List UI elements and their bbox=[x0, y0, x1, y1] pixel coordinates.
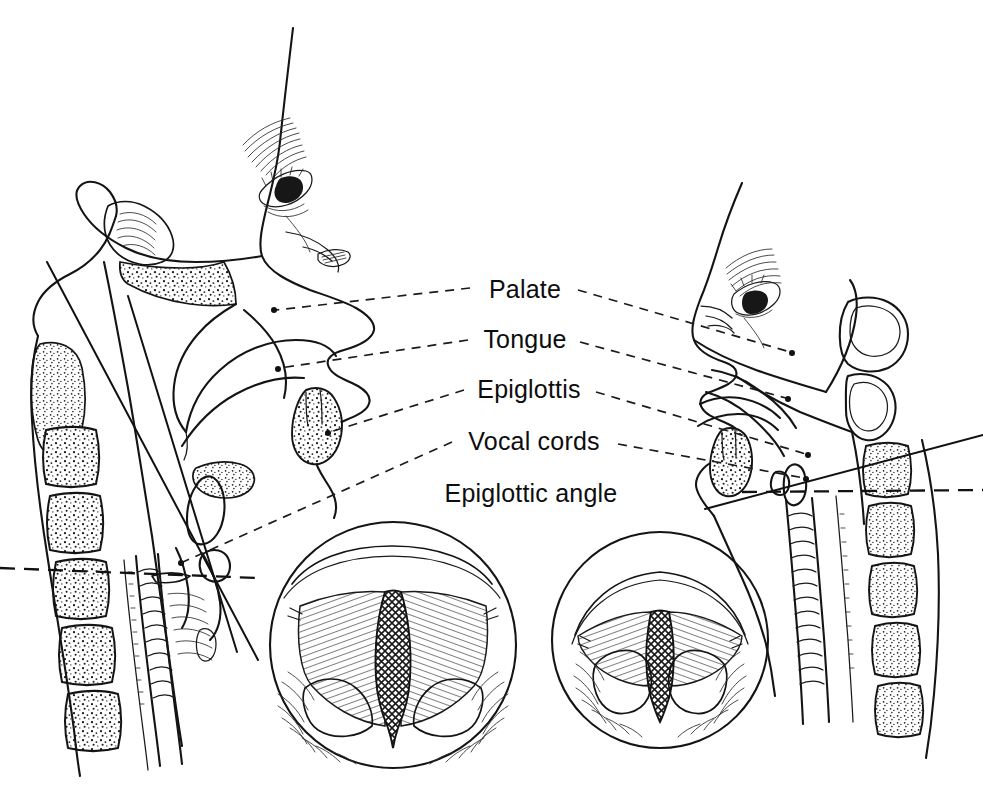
airway-anatomy-illustration: Palate Tongue Epiglottis Vocal cords Epi… bbox=[0, 0, 983, 793]
leader-dot-palate-right bbox=[789, 350, 795, 356]
label-epiglottic-angle: Epiglottic angle bbox=[445, 479, 618, 507]
symphysis-bone-left bbox=[292, 388, 342, 464]
label-palate: Palate bbox=[489, 275, 561, 303]
leader-dot-vocalcords-right bbox=[803, 476, 809, 482]
anatomy-figure: Palate Tongue Epiglottis Vocal cords Epi… bbox=[0, 0, 983, 793]
leader-dot-tongue-right bbox=[785, 396, 791, 402]
leader-dot-vocalcords-left bbox=[178, 560, 184, 566]
label-epiglottis: Epiglottis bbox=[477, 375, 580, 403]
leader-dot-epiglottis-right bbox=[805, 452, 811, 458]
label-vocal-cords: Vocal cords bbox=[468, 427, 599, 455]
leader-dot-tongue-left bbox=[275, 366, 281, 372]
leader-dot-epiglottis-left bbox=[325, 430, 331, 436]
label-tongue: Tongue bbox=[483, 325, 566, 353]
leader-dot-palate-left bbox=[271, 307, 277, 313]
